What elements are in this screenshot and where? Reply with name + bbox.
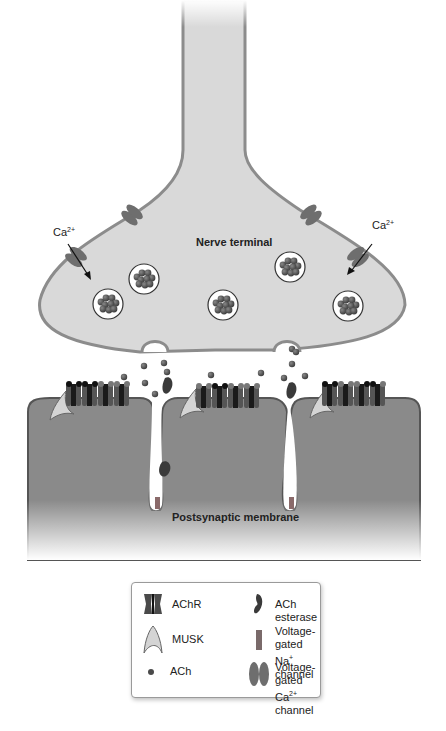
na-channel-icon [255,629,263,651]
achr-clusters [66,381,386,408]
na-channel [289,497,294,509]
ca-channel-icon [248,661,270,687]
nerve-terminal-label: Nerve terminal [196,236,272,248]
postsynaptic-membrane-label: Postsynaptic membrane [172,511,299,523]
legend-musk-label: MUSK [172,633,204,646]
ach-esterase [162,377,172,393]
ca-label-left: Ca2+ [53,226,75,238]
achr-icon [142,593,164,615]
ach-icon [147,668,155,676]
legend-achr-label: AChR [172,598,201,611]
legend-ach-label: ACh [170,665,191,678]
musk-icon [142,625,164,655]
ach-esterase [286,382,296,398]
na-channel [155,497,160,509]
ca-label-right: Ca2+ [372,219,394,231]
ach-esterase-icon [252,593,266,615]
postsynaptic-membrane [0,397,446,560]
legend: AChR ACh esterase MUSK Voltage-gated Na+… [131,582,321,698]
legend-ca-channel-label: Voltage-gated Ca2+ channel [275,661,320,717]
legend-ach-esterase-label: ACh esterase [275,598,320,624]
